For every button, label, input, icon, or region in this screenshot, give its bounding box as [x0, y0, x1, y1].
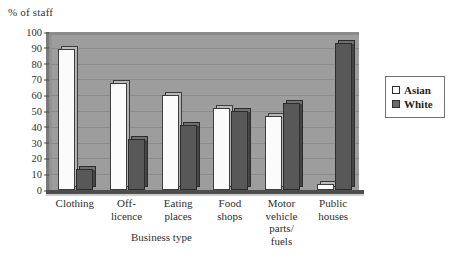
bar-asian-0	[58, 49, 75, 190]
gridline	[49, 32, 359, 33]
bar-face	[213, 108, 230, 190]
plot-top-edge	[49, 32, 359, 35]
bar-face	[180, 125, 197, 190]
bar-face	[231, 111, 248, 190]
plot-area: 1009080706050403020100	[46, 32, 359, 190]
bar-white-2	[180, 125, 197, 190]
filled-square-icon	[392, 100, 400, 108]
x-axis-title: Business type	[131, 231, 192, 243]
bar-side-face	[352, 40, 355, 187]
bar-side-face	[248, 108, 251, 187]
bar-side-face	[145, 136, 148, 187]
bar-side-face	[197, 122, 200, 187]
bar-white-1	[128, 139, 145, 190]
bar-white-5	[335, 43, 352, 190]
bar-white-4	[283, 103, 300, 190]
bar-white-0	[76, 169, 93, 190]
bar-asian-4	[265, 116, 282, 190]
bar-face	[58, 49, 75, 190]
bar-asian-1	[110, 83, 127, 190]
gridline	[49, 158, 359, 159]
legend-label-asian: Asian	[404, 84, 431, 96]
y-axis-tick-label: 100	[26, 27, 49, 38]
bar-face	[265, 116, 282, 190]
y-axis-tick-label: 90	[32, 42, 50, 53]
bar-side-face	[75, 46, 78, 187]
bar-asian-3	[213, 108, 230, 190]
y-axis-tick-label: 70	[32, 74, 50, 85]
bar-face	[283, 103, 300, 190]
bar-face	[162, 95, 179, 190]
gridline	[49, 64, 359, 65]
y-axis-tick-label: 10	[32, 169, 50, 180]
x-axis-baseline-shadow	[46, 194, 364, 196]
legend: Asian White	[385, 76, 445, 118]
y-axis-tick-label: 50	[32, 106, 50, 117]
bar-face	[128, 139, 145, 190]
bar-chart: % of staff 1009080706050403020100 Busine…	[0, 0, 464, 262]
bar-white-3	[231, 111, 248, 190]
legend-item-white: White	[392, 98, 439, 110]
bar-face	[110, 83, 127, 190]
gridline	[49, 111, 359, 112]
hollow-square-icon	[392, 86, 400, 94]
y-axis-tick-label: 40	[32, 121, 50, 132]
y-axis-tick-label: 80	[32, 58, 50, 69]
gridline	[49, 48, 359, 49]
gridline	[49, 95, 359, 96]
bar-face	[335, 43, 352, 190]
gridline	[49, 79, 359, 80]
y-axis-tick-label: 20	[32, 153, 50, 164]
gridline	[49, 127, 359, 128]
legend-label-white: White	[404, 98, 433, 110]
gridline	[49, 143, 359, 144]
bar-face	[76, 169, 93, 190]
plot-left-wall	[49, 32, 54, 190]
bar-side-face	[300, 100, 303, 187]
y-axis-title: % of staff	[8, 6, 53, 18]
y-axis-tick-label: 30	[32, 137, 50, 148]
y-axis-tick-label: 60	[32, 90, 50, 101]
bar-asian-2	[162, 95, 179, 190]
legend-item-asian: Asian	[392, 84, 439, 96]
x-axis-tick-label: Public houses	[301, 197, 365, 222]
